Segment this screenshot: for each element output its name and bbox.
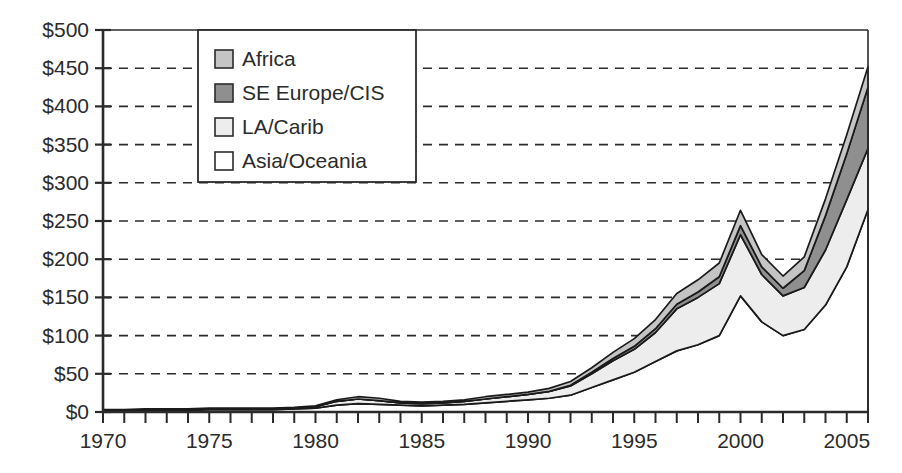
x-tick-label: 1970 [80, 429, 127, 452]
legend-label-africa: Africa [242, 47, 296, 70]
legend-label-la-carib: LA/Carib [242, 115, 324, 138]
x-tick-label: 1990 [505, 429, 552, 452]
y-tick-label: $250 [42, 209, 89, 232]
x-tick-label: 2000 [717, 429, 764, 452]
y-tick-label: $50 [54, 362, 89, 385]
x-tick-label: 1995 [611, 429, 658, 452]
y-tick-label: $150 [42, 285, 89, 308]
x-tick-label: 1975 [186, 429, 233, 452]
legend-label-se-europe-cis: SE Europe/CIS [242, 81, 384, 104]
legend-swatch-la-carib [215, 118, 233, 136]
legend-label-asia-oceania: Asia/Oceania [242, 149, 367, 172]
y-tick-label: $0 [66, 400, 89, 423]
y-tick-label: $200 [42, 247, 89, 270]
y-tick-label: $500 [42, 18, 89, 41]
x-tick-label: 1980 [292, 429, 339, 452]
x-tick-label: 2005 [823, 429, 870, 452]
legend-swatch-africa [215, 50, 233, 68]
y-tick-label: $450 [42, 56, 89, 79]
stacked-area-chart: $0$50$100$150$200$250$300$350$400$450$50… [0, 0, 902, 473]
y-tick-label: $350 [42, 133, 89, 156]
y-tick-label: $400 [42, 94, 89, 117]
chart-legend: AfricaSE Europe/CISLA/CaribAsia/Oceania [198, 30, 416, 182]
chart-container: $0$50$100$150$200$250$300$350$400$450$50… [0, 0, 902, 473]
y-tick-label: $300 [42, 171, 89, 194]
y-tick-label: $100 [42, 324, 89, 347]
x-tick-label: 1985 [398, 429, 445, 452]
legend-swatch-se-europe-cis [215, 84, 233, 102]
legend-swatch-asia-oceania [215, 152, 233, 170]
